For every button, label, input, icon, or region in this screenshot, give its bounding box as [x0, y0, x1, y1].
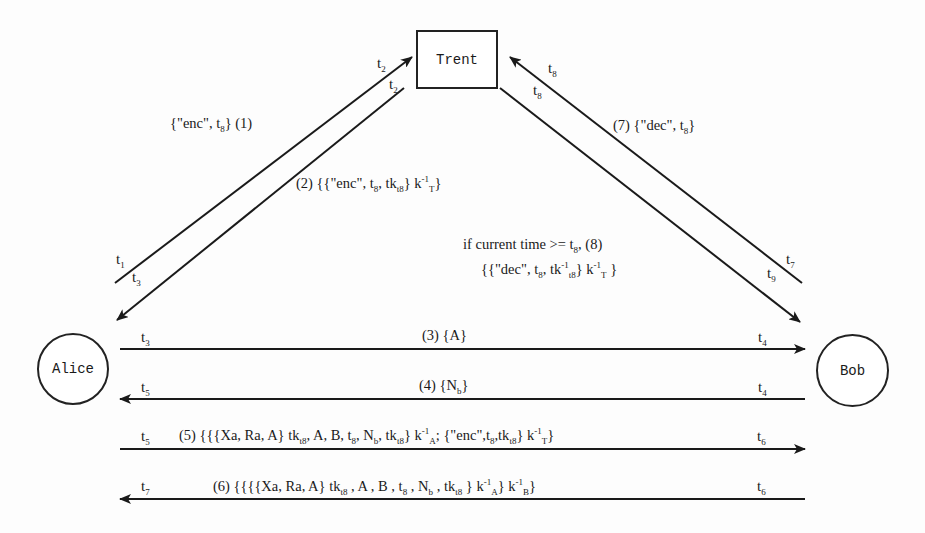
bob-label: Bob [840, 363, 865, 379]
time-label-t3: t3 [141, 330, 150, 345]
bob-node: Bob [816, 334, 889, 407]
alice-label: Alice [52, 361, 94, 377]
message-8-label: {{"dec", t8, tk-1t8} k-1T } [481, 262, 617, 277]
alice-node: Alice [37, 333, 109, 405]
time-label-t2-lower: t2 [389, 77, 398, 92]
time-label-t4-lower: t4 [758, 380, 767, 395]
time-label-t4-upper: t4 [758, 330, 767, 345]
message-3-label: (3) {A} [422, 328, 467, 343]
message-5-label: (5) {{{Xa, Ra, A} tkt8, A, B, t8, Nb, tk… [179, 428, 554, 443]
time-label-t9: t9 [767, 266, 776, 281]
time-label-t8-lower: t8 [533, 83, 542, 98]
message-7-label: (7) {"dec", t8} [613, 118, 695, 133]
message-4-label: (4) {Nb} [419, 378, 468, 393]
trent-node: Trent [416, 30, 498, 89]
time-label-t8-upper: t8 [548, 61, 557, 76]
time-label-t7-diag: t7 [786, 252, 795, 267]
time-label-t5-lower: t5 [141, 429, 150, 444]
message-2-label: (2) {{"enc", t8, tkt8} k-1T} [296, 176, 442, 191]
protocol-diagram: Trent Alice Bob t2 t2 t8 t8 t1 t3 t7 t9 … [0, 0, 925, 533]
time-label-t5-upper: t5 [141, 380, 150, 395]
trent-label: Trent [436, 52, 478, 68]
time-label-t2-upper: t2 [377, 56, 386, 71]
time-label-t6-lower: t6 [757, 479, 766, 494]
message-8-condition: if current time >= t8, (8) [463, 237, 602, 252]
message-6-label: (6) {{{{Xa, Ra, A} tkt8 , A , B , t8 , N… [213, 479, 536, 494]
time-label-t7: t7 [141, 479, 150, 494]
time-label-t1: t1 [116, 252, 125, 267]
arrow-2-trent-to-alice [117, 88, 404, 320]
time-label-t6-upper: t6 [757, 429, 766, 444]
time-label-t3-diag: t3 [132, 270, 141, 285]
arrow-1-alice-to-trent [115, 57, 412, 283]
message-1-label: {"enc", t8} (1) [170, 116, 252, 131]
